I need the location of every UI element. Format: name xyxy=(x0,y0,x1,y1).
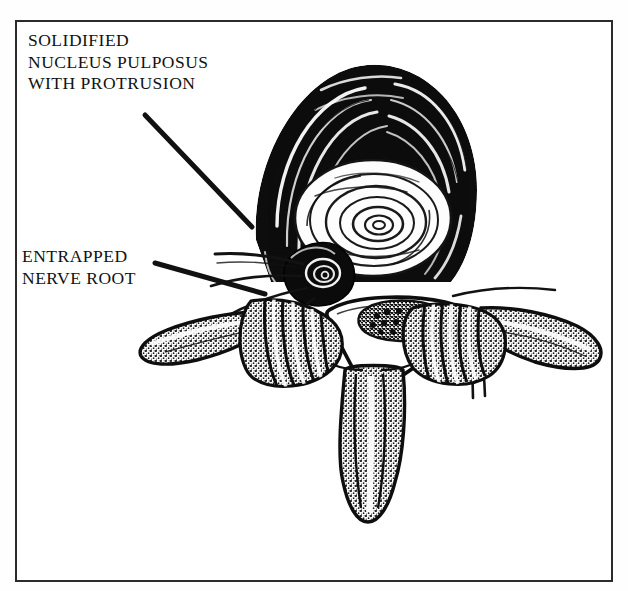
label-solidified-nucleus-pulposus: SOLIDIFIED NUCLEUS PULPOSUS WITH PROTRUS… xyxy=(28,30,209,95)
leader-line-solidified xyxy=(145,115,252,227)
nerve-root-right-upper xyxy=(453,288,555,296)
spinous-process xyxy=(340,366,405,523)
disc-protrusion xyxy=(284,243,355,306)
leader-lines xyxy=(145,115,265,294)
anatomical-illustration xyxy=(15,20,613,582)
label-entrapped-nerve-root: ENTRAPPED NERVE ROOT xyxy=(22,246,136,289)
figure-canvas: SOLIDIFIED NUCLEUS PULPOSUS WITH PROTRUS… xyxy=(0,0,628,591)
